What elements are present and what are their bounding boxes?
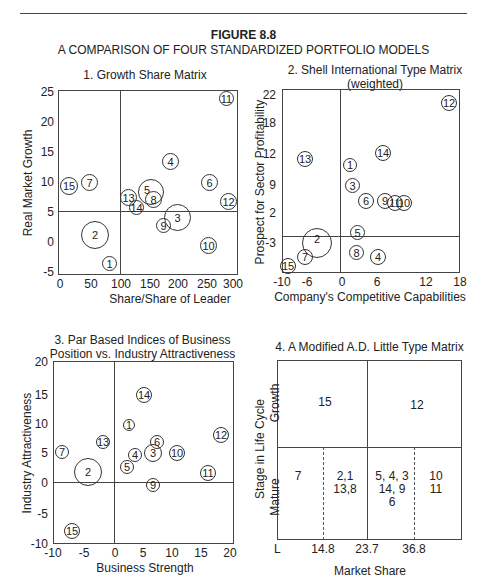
figure-label: FIGURE 8.8 (0, 28, 487, 42)
chart2-xtick: -6 (292, 276, 322, 288)
chart1-y-divider (58, 211, 238, 212)
bubble-13: 13 (96, 435, 110, 449)
bubble-15: 15 (64, 523, 80, 539)
bubble-12: 12 (213, 427, 229, 443)
chart1-xtick: 300 (218, 278, 248, 290)
bubble-10: 10 (169, 445, 185, 461)
bubble-4: 4 (162, 153, 179, 170)
bubble-3: 3 (144, 444, 162, 462)
chart4-ylabel: Stage in Life Cycle (253, 384, 267, 514)
chart4-row-growth: Growth (268, 373, 282, 433)
chart1-xtick: 150 (135, 278, 165, 290)
bubble-12: 12 (220, 193, 237, 210)
bubble-7: 7 (55, 445, 69, 459)
bubble-8: 8 (349, 245, 364, 260)
bubble-8: 8 (145, 191, 162, 208)
chart1-xtick: 50 (76, 278, 106, 290)
chart1-xlabel: Share/Share of Leader (100, 292, 240, 306)
chart1-ytick: 25 (28, 86, 54, 98)
chart4-dashed-divider-1 (323, 447, 324, 540)
cell-mature-2: 2,1 13,8 (325, 470, 365, 496)
bubble-14: 14 (136, 387, 152, 403)
cell-growth-high-share: 12 (397, 399, 437, 412)
chart4-xtick: 14.8 (303, 543, 343, 555)
chart3-xtick: 5 (128, 547, 158, 559)
chart3-xtick: 10 (157, 547, 187, 559)
chart4-dashed-divider-2 (414, 447, 415, 540)
chart2-xtick: 12 (411, 276, 441, 288)
bubble-6: 6 (201, 174, 218, 191)
chart1-title: 1. Growth Share Matrix (40, 68, 250, 82)
chart2-title: 2. Shell International Type Matrix (weig… (270, 63, 480, 91)
chart3-xtick: -5 (69, 547, 99, 559)
bubble-13: 13 (297, 151, 313, 167)
bubble-10: 10 (200, 237, 217, 254)
bubble-5: 5 (350, 225, 365, 240)
chart1-ylabel: Real Market Growth (21, 113, 35, 253)
chart3-xlabel: Business Strength (70, 561, 220, 575)
chart4-xtick: 23.7 (347, 543, 387, 555)
chart2-xtick: 0 (327, 276, 357, 288)
chart1-ytick: -5 (28, 266, 54, 278)
bubble-4: 4 (370, 249, 386, 265)
bubble-9: 9 (156, 218, 171, 233)
chart2-x-divider (340, 89, 341, 273)
bubble-1: 1 (343, 158, 357, 172)
bubble-14: 14 (129, 200, 144, 215)
chart4-frame (277, 360, 462, 540)
bubble-1: 1 (123, 419, 135, 431)
chart3-title-line2: Position vs. Industry Attractiveness (30, 347, 255, 361)
bubble-2: 2 (81, 221, 109, 249)
chart3-title: 3. Par Based Indices of Business Positio… (30, 333, 255, 361)
chart3-xtick: -10 (38, 547, 68, 559)
cell-growth-low-share: 15 (305, 396, 345, 409)
bubble-15: 15 (60, 177, 78, 195)
chart4-y-divider (277, 447, 462, 448)
cell-mature-1: 7 (283, 470, 313, 483)
bubble-6: 6 (358, 193, 374, 209)
chart3-ylabel: Industry Attractiveness (20, 373, 34, 533)
chart4-xlabel: Market Share (320, 564, 420, 578)
figure-title: A COMPARISON OF FOUR STANDARDIZED PORTFO… (0, 43, 487, 57)
chart2-xlabel: Company's Competitive Capabilities (265, 290, 475, 304)
chart1-xtick: 100 (106, 278, 136, 290)
bubble-1: 1 (102, 256, 117, 271)
bubble-11: 11 (387, 195, 403, 211)
chart4-xtick: 36.8 (394, 543, 434, 555)
chart3-x-divider (114, 361, 115, 544)
bubble-7: 7 (297, 249, 313, 265)
bubble-11: 11 (200, 465, 216, 481)
chart4-row-mature: Mature (268, 467, 282, 527)
bubble-12: 12 (441, 95, 457, 111)
chart2-ylabel: Prospect for Sector Profitability (253, 82, 267, 282)
chart4-title: 4. A Modified A.D. Little Type Matrix (262, 340, 477, 354)
chart1-x-divider (120, 90, 121, 275)
bubble-9: 9 (146, 478, 160, 492)
top-rule (20, 13, 467, 14)
chart2-xtick: 18 (445, 276, 475, 288)
cell-mature-3: 5, 4, 3 14, 9 6 (370, 470, 414, 509)
bubble-11: 11 (219, 91, 234, 106)
chart2-xtick: 6 (362, 276, 392, 288)
bubble-15: 15 (280, 258, 296, 274)
bubble-5: 5 (120, 460, 134, 474)
chart4-xtick: L (274, 543, 281, 555)
chart3-title-line1: 3. Par Based Indices of Business (30, 333, 255, 347)
chart3-xtick: 15 (186, 547, 216, 559)
chart2-title-line1: 2. Shell International Type Matrix (270, 63, 480, 77)
bubble-3: 3 (345, 178, 360, 193)
chart4-x-divider (367, 360, 368, 540)
chart3-xtick: 20 (215, 547, 245, 559)
chart3-xtick: 0 (100, 547, 130, 559)
bubble-7: 7 (81, 174, 98, 191)
bubble-14: 14 (375, 145, 391, 161)
cell-mature-4: 10 11 (421, 470, 451, 496)
chart1-xtick: 0 (45, 278, 75, 290)
chart1-xtick: 200 (163, 278, 193, 290)
bubble-2: 2 (74, 458, 102, 486)
chart3-ytick: 20 (22, 356, 48, 368)
